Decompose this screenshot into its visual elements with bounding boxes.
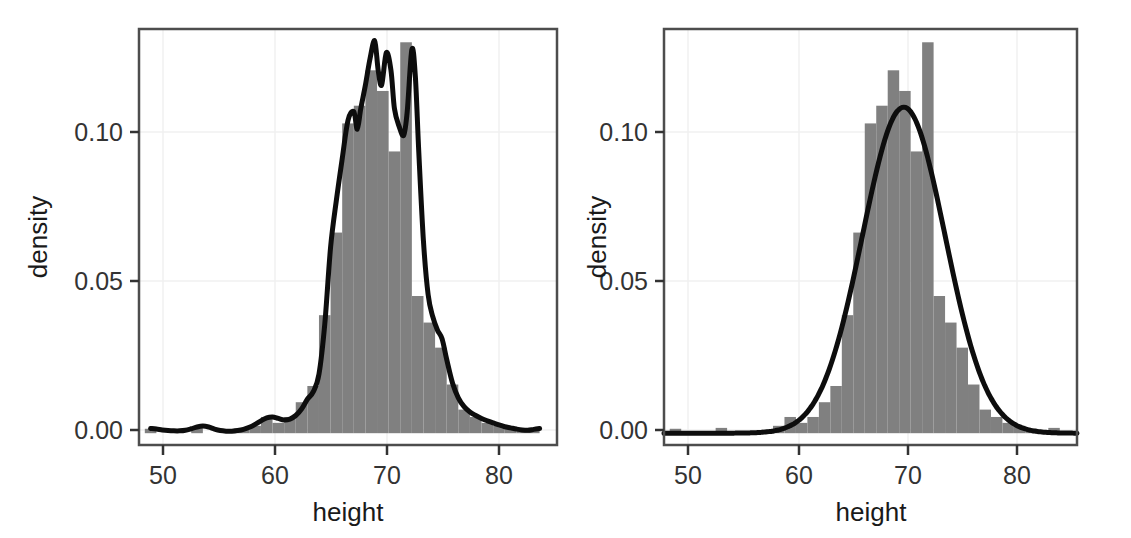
histogram-bar [354,106,366,433]
left-y-ticks [130,132,139,430]
histogram-bar [979,410,990,434]
left-ytick-label-2: 0.10 [74,118,123,146]
right-xtick-label-2: 70 [894,461,922,489]
left-xtick-label-3: 80 [485,461,513,489]
left-xtick-label-1: 60 [261,461,289,489]
left-xtick-label-2: 70 [373,461,401,489]
right-x-ticks [688,445,1017,455]
histogram-bar [365,70,377,433]
left-x-ticks [163,445,499,455]
right-y-ticks [655,132,664,430]
histogram-bar [273,423,285,433]
right-ytick-label-2: 0.10 [599,118,648,146]
figure-two-panel-density-plots: 0.00 0.05 0.10 50 60 70 80 height densit… [0,0,1131,538]
panel-right-normal-fit: 0.00 0.05 0.10 50 60 70 80 height densit… [566,0,1131,538]
right-y-axis-title: density [582,196,612,278]
histogram-bar [342,123,354,433]
left-x-axis-title: height [313,497,385,527]
right-xtick-label-0: 50 [674,461,702,489]
histogram-bar [331,233,343,434]
histogram-bar [934,296,945,433]
panel-left-kde: 0.00 0.05 0.10 50 60 70 80 height densit… [0,0,565,538]
right-panel-svg: 0.00 0.05 0.10 50 60 70 80 height densit… [566,0,1131,538]
histogram-bar [842,315,853,433]
histogram-bar [922,42,933,433]
histogram-bar [819,402,830,433]
right-xtick-label-1: 60 [785,461,813,489]
left-ytick-label-1: 0.05 [74,267,123,295]
histogram-bar [796,423,807,433]
histogram-bar [412,296,424,433]
histogram-bar [377,91,389,433]
left-xtick-label-0: 50 [149,461,177,489]
histogram-bar [830,386,841,433]
left-panel-svg: 0.00 0.05 0.10 50 60 70 80 height densit… [0,0,565,538]
left-y-axis-title: density [23,196,53,278]
histogram-bar [899,91,910,433]
histogram-bar [945,323,956,434]
right-xtick-label-3: 80 [1003,461,1031,489]
histogram-bar [423,323,435,434]
right-ytick-label-0: 0.00 [599,416,648,444]
histogram-bar [968,385,979,434]
histogram-bar [807,417,818,433]
histogram-bar [991,417,1002,433]
histogram-bar [389,151,401,433]
histogram-bar [957,348,968,434]
right-x-axis-title: height [836,497,908,527]
histogram-bar [911,151,922,433]
left-ytick-label-0: 0.00 [74,416,123,444]
